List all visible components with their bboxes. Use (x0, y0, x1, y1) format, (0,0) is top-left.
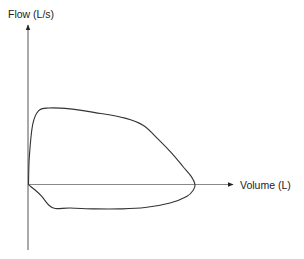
flow-volume-chart: Flow (L/s) Volume (L) (0, 0, 304, 259)
flow-volume-loop-line (29, 108, 196, 209)
y-axis-label: Flow (L/s) (8, 8, 54, 20)
x-axis-label: Volume (L) (240, 179, 291, 191)
series-layer (29, 108, 196, 209)
